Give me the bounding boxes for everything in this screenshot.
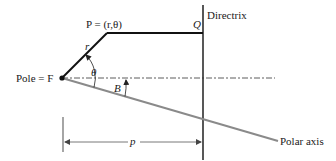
pole-point (59, 75, 64, 80)
distance-p-label: p (129, 135, 136, 147)
pole-label: Pole = F (16, 72, 53, 84)
polar-diagram: P = (r,θ) Q Directrix r θ B Pole = F p P… (0, 0, 336, 161)
theta-label: θ (91, 66, 97, 78)
radius-label: r (85, 40, 90, 52)
point-q-label: Q (193, 18, 201, 30)
b-angle-arrow (125, 80, 126, 97)
angle-b-label: B (114, 82, 121, 94)
directrix-label: Directrix (207, 9, 247, 21)
point-p-label: P = (r,θ) (86, 18, 122, 31)
polar-axis-label: Polar axis (280, 135, 324, 147)
